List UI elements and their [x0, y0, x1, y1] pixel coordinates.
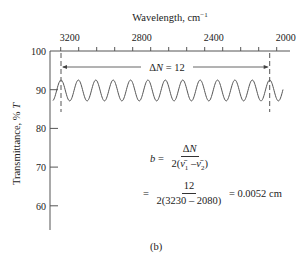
- equals-sign: =: [143, 188, 152, 199]
- delta-n-label: ΔN = 12: [149, 62, 184, 73]
- result: = 0.0052 cm: [226, 188, 282, 199]
- y-tick-label: 80: [36, 123, 46, 134]
- y-ticks: [50, 90, 58, 206]
- x-tick-labels: 3200 2800 2400 2000: [60, 32, 296, 43]
- transmittance-fringe-curve: [53, 80, 283, 101]
- denominator: 2(ν̄1 –ν̄2): [169, 157, 209, 174]
- x-tick-label: 3200: [60, 32, 80, 43]
- figure-caption: (b): [150, 241, 162, 252]
- y-tick-labels: 100 90 80 70 60: [31, 46, 46, 212]
- equals-sign: =: [155, 153, 166, 164]
- y-tick-label: 70: [36, 162, 46, 173]
- transmittance-chart: Wavelength, cm−1 3200 2800 2400 2000 100…: [0, 0, 306, 263]
- y-tick-label: 90: [36, 85, 46, 96]
- x-tick-label: 2400: [204, 32, 224, 43]
- x-ticks: [61, 47, 277, 51]
- numerator: 12: [182, 180, 197, 194]
- y-tick-label: 60: [36, 201, 46, 212]
- formula-b: b = ΔN 2(ν̄1 –ν̄2): [150, 143, 213, 174]
- formula-numeric: = 12 2(3230 – 2080) = 0.0052 cm: [143, 180, 282, 207]
- y-axis-title: Transmittance, % T: [11, 102, 22, 185]
- fraction-numeric: 12 2(3230 – 2080): [155, 180, 224, 207]
- x-tick-label: 2800: [132, 32, 152, 43]
- x-tick-label: 2000: [276, 32, 296, 43]
- numerator: ΔN: [181, 143, 199, 157]
- fraction-general: ΔN 2(ν̄1 –ν̄2): [169, 143, 209, 174]
- y-tick-label: 100: [31, 46, 46, 57]
- top-axis-title: Wavelength, cm−1: [132, 11, 208, 23]
- denominator: 2(3230 – 2080): [155, 194, 224, 207]
